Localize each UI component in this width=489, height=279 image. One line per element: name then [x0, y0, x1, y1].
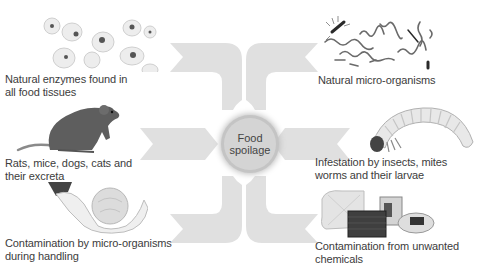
larva-icon — [365, 102, 480, 154]
food-spoilage-center: Food spoilage — [224, 118, 276, 170]
arrow-handling — [170, 176, 242, 243]
label-microorganisms: Natural micro-organisms — [318, 74, 436, 87]
label-line: worms and their larvae — [315, 169, 447, 182]
arrow-rodents — [140, 128, 218, 160]
arrow-enzymes — [170, 43, 242, 110]
label-chemicals: Contamination from unwanted chemicals — [315, 240, 459, 266]
label-line: Natural micro-organisms — [318, 74, 436, 87]
hands-holding-cabbage-icon — [48, 182, 148, 234]
label-insects: Infestation by insects, mites worms and … — [315, 156, 447, 182]
label-line: Contamination by micro-organisms — [5, 237, 172, 250]
center-title-line2: spoilage — [230, 144, 271, 156]
label-line: all food tissues — [5, 86, 127, 99]
label-line: during handling — [5, 250, 172, 263]
arrow-chemicals — [246, 176, 318, 243]
label-line: Natural enzymes found in — [5, 73, 127, 86]
label-line: their excreta — [5, 170, 132, 183]
label-rodents: Rats, mice, dogs, cats and their excreta — [5, 157, 132, 183]
label-line: Contamination from unwanted — [315, 240, 459, 253]
cells-icon — [40, 10, 160, 72]
center-title-line1: Food — [237, 132, 262, 144]
label-handling: Contamination by micro-organisms during … — [5, 237, 172, 263]
rat-icon — [14, 98, 124, 154]
arrow-microorganisms — [246, 43, 318, 110]
food-spoilage-diagram: Natural enzymes found in all food tissue… — [0, 0, 489, 279]
chemical-containers-icon — [318, 187, 443, 239]
label-enzymes: Natural enzymes found in all food tissue… — [5, 73, 127, 99]
label-line: Infestation by insects, mites — [315, 156, 447, 169]
label-line: chemicals — [315, 253, 459, 266]
label-line: Rats, mice, dogs, cats and — [5, 157, 132, 170]
microorganisms-icon — [320, 12, 450, 70]
